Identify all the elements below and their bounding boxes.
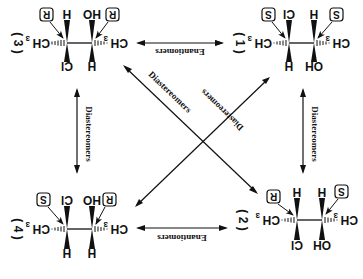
config-label: S bbox=[338, 186, 345, 197]
wedge-bond bbox=[89, 20, 95, 43]
svg-text:3: 3 bbox=[103, 34, 108, 43]
atom-cl: Cl bbox=[61, 59, 73, 73]
stereoisomer-diagram: H Cl HO H CH3 CH3 R R ( 3 ) bbox=[0, 0, 363, 279]
atom-h: H bbox=[318, 185, 327, 199]
wedge-bond bbox=[64, 20, 70, 43]
atom-h: H bbox=[310, 7, 319, 21]
molecule-3: H Cl HO H CH3 CH3 R R ( 3 ) bbox=[11, 7, 128, 73]
atom-h: H bbox=[63, 246, 72, 260]
molecule-2: H Cl H OH CH3 CH3 R S ( 2 ) bbox=[236, 185, 358, 252]
molecule-4: Cl H HO H CH3 CH3 S R ( 4 ) bbox=[11, 193, 128, 260]
atom-cl: Cl bbox=[291, 238, 303, 252]
svg-text:3: 3 bbox=[325, 34, 330, 43]
svg-text:CH: CH bbox=[341, 213, 358, 227]
atom-cl: Cl bbox=[283, 7, 295, 21]
methyl-group: CH3 bbox=[103, 34, 128, 50]
relation-label: Diastereomers bbox=[310, 106, 320, 162]
svg-text:CH: CH bbox=[111, 222, 128, 236]
hash-bond bbox=[50, 40, 64, 46]
molecule-number: ( 1 ) bbox=[233, 32, 247, 53]
relation-enantiomers-bottom: Enantiomers bbox=[138, 228, 226, 243]
relation-diastereomers-left: Diastereomers bbox=[77, 90, 94, 172]
molecule-number: ( 4 ) bbox=[11, 218, 25, 239]
atom-ho: HO bbox=[83, 7, 101, 21]
svg-text:CH: CH bbox=[333, 36, 350, 50]
molecule-1: Cl H H OH CH3 CH3 S S ( 1 ) bbox=[233, 7, 350, 73]
svg-text:CH: CH bbox=[263, 213, 280, 227]
relation-enantiomers-top: Enantiomers bbox=[138, 43, 222, 57]
config-label: S bbox=[333, 9, 340, 20]
svg-text:3: 3 bbox=[255, 211, 260, 220]
methyl-group: CH3 bbox=[25, 34, 50, 50]
relation-label: Enantiomers bbox=[157, 233, 207, 243]
config-label: S bbox=[265, 9, 272, 20]
relation-label: Diastereomers bbox=[84, 106, 94, 162]
config-label: R bbox=[105, 194, 113, 205]
atom-oh: OH bbox=[313, 238, 331, 252]
molecule-number: ( 2 ) bbox=[236, 209, 250, 230]
config-label: R bbox=[269, 191, 277, 202]
config-label: R bbox=[108, 9, 116, 20]
svg-text:3: 3 bbox=[103, 220, 108, 229]
atom-oh: OH bbox=[305, 59, 323, 73]
atom-h: H bbox=[88, 59, 97, 73]
svg-text:3: 3 bbox=[333, 211, 338, 220]
atom-h: H bbox=[285, 59, 294, 73]
svg-text:CH: CH bbox=[255, 36, 272, 50]
relation-label: Diastereomers bbox=[147, 69, 194, 115]
relation-label: Diastereomers bbox=[198, 87, 245, 133]
config-label: R bbox=[42, 9, 50, 20]
config-label: S bbox=[40, 194, 47, 205]
atom-h: H bbox=[63, 7, 72, 21]
atom-h: H bbox=[88, 246, 97, 260]
svg-text:CH: CH bbox=[33, 36, 50, 50]
molecule-number: ( 3 ) bbox=[11, 32, 25, 53]
relation-diastereomers-right: Diastereomers bbox=[303, 90, 320, 172]
svg-text:CH: CH bbox=[111, 36, 128, 50]
atom-cl: Cl bbox=[61, 193, 73, 207]
atom-ho: HO bbox=[83, 193, 101, 207]
relation-label: Enantiomers bbox=[155, 47, 205, 57]
atom-h: H bbox=[293, 185, 302, 199]
svg-text:CH: CH bbox=[33, 222, 50, 236]
